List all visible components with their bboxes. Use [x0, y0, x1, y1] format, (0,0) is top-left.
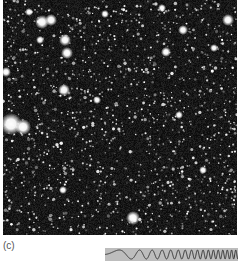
chirp-waveform	[105, 248, 238, 261]
panel-label: (c)	[3, 240, 15, 251]
star-field-image	[3, 0, 237, 235]
chirp-signal-strip	[105, 248, 238, 261]
